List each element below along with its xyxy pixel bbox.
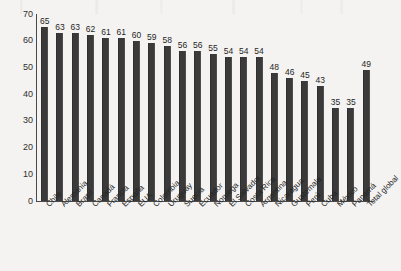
y-tick-label-60: 60 xyxy=(3,36,33,45)
y-tick-label-10: 10 xyxy=(3,170,33,179)
bar-slot: 56 xyxy=(175,14,190,201)
bar-slot: 35 xyxy=(328,14,343,201)
bar-slot: 62 xyxy=(83,14,98,201)
y-tick-label-50: 50 xyxy=(3,63,33,72)
bar-value-label: 35 xyxy=(346,98,355,107)
bar xyxy=(179,51,186,201)
bar-slot: 55 xyxy=(205,14,220,201)
bar-value-label: 43 xyxy=(316,76,325,85)
bar-value-label: 54 xyxy=(254,47,263,56)
y-tick-label-40: 40 xyxy=(3,90,33,99)
y-tick-label-0: 0 xyxy=(3,197,33,206)
bar xyxy=(332,108,339,202)
bar-slot: 63 xyxy=(52,14,67,201)
bar-slot: 65 xyxy=(37,14,52,201)
bar-value-label: 46 xyxy=(285,68,294,77)
bar-value-label: 61 xyxy=(116,28,125,37)
bar-slot: 54 xyxy=(236,14,251,201)
bar-value-label: 56 xyxy=(178,41,187,50)
bar-value-label: 58 xyxy=(162,36,171,45)
bar xyxy=(102,38,109,201)
bar xyxy=(363,70,370,201)
bar-value-label: 63 xyxy=(55,23,64,32)
bar-slot: 46 xyxy=(282,14,297,201)
bar-value-label: 35 xyxy=(331,98,340,107)
y-tick-label-30: 30 xyxy=(3,116,33,125)
bar-slot: 58 xyxy=(160,14,175,201)
bar-series: 6563636261616059585656555454544846454335… xyxy=(37,14,374,201)
bar xyxy=(72,33,79,201)
bar xyxy=(240,57,247,201)
bar xyxy=(194,51,201,201)
bar-value-label: 54 xyxy=(239,47,248,56)
bar-value-label: 49 xyxy=(361,60,370,69)
bar-slot: 45 xyxy=(297,14,312,201)
bar-slot: 59 xyxy=(144,14,159,201)
bar xyxy=(133,41,140,201)
bar-value-label: 59 xyxy=(147,33,156,42)
bar-slot: 54 xyxy=(251,14,266,201)
bar xyxy=(148,43,155,201)
bar xyxy=(225,57,232,201)
bar xyxy=(87,35,94,201)
bar-slot: 35 xyxy=(343,14,358,201)
bar-value-label: 62 xyxy=(86,25,95,34)
bar-slot: 60 xyxy=(129,14,144,201)
bar-value-label: 63 xyxy=(71,23,80,32)
bar-slot: 63 xyxy=(68,14,83,201)
x-axis-category-labels: ChileAlemaniaBrasilCanadáFranciaEspañaEU… xyxy=(37,203,374,271)
bar xyxy=(56,33,63,201)
y-axis-tick-labels: 010203040506070 xyxy=(0,0,33,271)
bar-slot: 43 xyxy=(313,14,328,201)
bar-value-label: 54 xyxy=(224,47,233,56)
bar xyxy=(164,46,171,201)
bar-value-label: 65 xyxy=(40,17,49,26)
bar-slot: 48 xyxy=(267,14,282,201)
bar xyxy=(210,54,217,201)
bar-value-label: 48 xyxy=(270,63,279,72)
bar-slot: 56 xyxy=(190,14,205,201)
bar-slot: 54 xyxy=(221,14,236,201)
bar xyxy=(118,38,125,201)
bar-value-label: 56 xyxy=(193,41,202,50)
bar-slot: 61 xyxy=(98,14,113,201)
bar-slot: 61 xyxy=(114,14,129,201)
bar xyxy=(41,27,48,201)
bar-value-label: 61 xyxy=(101,28,110,37)
bar-value-label: 60 xyxy=(132,31,141,40)
y-tick-label-70: 70 xyxy=(3,10,33,19)
bar-value-label: 55 xyxy=(208,44,217,53)
bar-slot: 49 xyxy=(359,14,374,201)
y-tick-label-20: 20 xyxy=(3,143,33,152)
bar-value-label: 45 xyxy=(300,71,309,80)
